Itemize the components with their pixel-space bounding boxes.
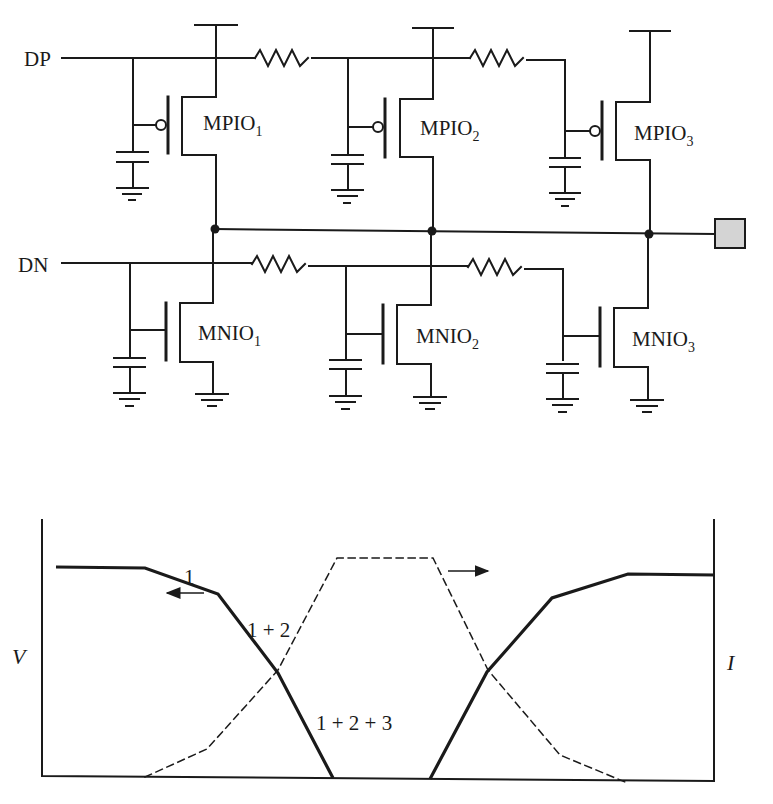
ground-icon	[330, 369, 361, 409]
pmos-gate-bubble-icon	[156, 120, 166, 130]
current-curve	[430, 574, 715, 779]
mnio1-label: MNIO1	[198, 321, 261, 349]
pmos-mpio3: MPIO3	[550, 31, 694, 233]
mpio1-label: MPIO1	[203, 111, 263, 139]
ground-icon	[547, 373, 578, 412]
capacitor-icon	[547, 364, 578, 373]
output-node	[211, 219, 746, 248]
mpio2-label: MPIO2	[420, 116, 480, 144]
segment-label-1: 1	[184, 565, 195, 589]
mnio3-label: MNIO3	[632, 327, 695, 355]
capacitor-icon	[114, 358, 145, 367]
resistor-icon	[255, 50, 308, 66]
circuit-and-waveform-figure: DP MPIO1	[0, 0, 773, 804]
segment-label-1-2: 1 + 2	[247, 618, 290, 642]
plot-axes	[42, 520, 714, 781]
nmos-mnio3: MNIO3	[547, 234, 695, 412]
ground-icon	[631, 400, 663, 412]
resistor-icon	[468, 259, 521, 275]
dashed-curve	[145, 558, 625, 782]
ground-icon	[550, 167, 580, 206]
junction-dot-icon	[211, 225, 220, 234]
capacitor-icon	[117, 152, 148, 162]
io-pad-icon	[715, 219, 745, 248]
ground-icon	[414, 397, 446, 409]
capacitor-icon	[550, 158, 580, 167]
dn-label: DN	[18, 253, 48, 277]
ground-icon	[332, 164, 363, 203]
dp-line	[62, 50, 565, 155]
v-axis-label: V	[12, 644, 28, 669]
circuit-schematic: DP MPIO1	[18, 25, 745, 412]
ground-icon	[117, 162, 148, 200]
mpio3-label: MPIO3	[634, 121, 694, 149]
resistor-icon	[252, 256, 305, 272]
ground-icon	[114, 367, 145, 406]
pmos-gate-bubble-icon	[373, 122, 383, 132]
voltage-curve	[56, 567, 333, 778]
dp-label: DP	[24, 47, 51, 71]
nmos-mnio2: MNIO2	[330, 231, 479, 409]
dn-line	[62, 256, 563, 360]
segment-label-1-2-3: 1 + 2 + 3	[316, 711, 392, 735]
pmos-gate-bubble-icon	[590, 126, 600, 136]
waveform-plot: 1 1 + 2 1 + 2 + 3 V I	[12, 520, 736, 782]
capacitor-icon	[332, 155, 363, 164]
ground-icon	[196, 394, 228, 406]
i-axis-label: I	[726, 650, 736, 675]
resistor-icon	[470, 50, 523, 66]
capacitor-icon	[330, 360, 361, 369]
nmos-mnio1: MNIO1	[114, 229, 261, 406]
pmos-mpio1: MPIO1	[117, 25, 263, 229]
mnio2-label: MNIO2	[416, 324, 479, 352]
